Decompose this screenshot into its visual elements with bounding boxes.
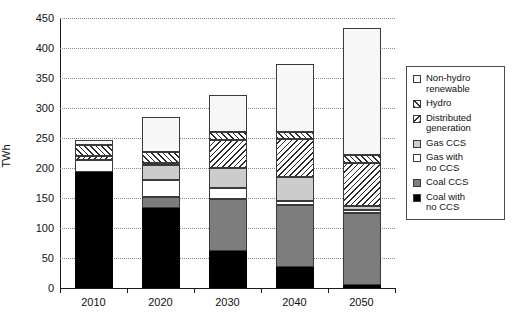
bar-segment[interactable] [343,213,381,285]
x-tick-label-2040: 2040 [265,296,325,308]
x-tick-label-2030: 2030 [198,296,258,308]
legend-item[interactable]: Non-hydrorenewable [413,73,499,94]
bar-2010[interactable] [75,18,113,288]
x-tick-mark [127,288,128,293]
bar-segment[interactable] [276,177,314,201]
bar-segment[interactable] [75,140,113,145]
bar-2030[interactable] [209,18,247,288]
bar-segment[interactable] [142,165,180,180]
y-axis-tick-labels: 050100150200250300350400450 [18,18,54,288]
bar-segment[interactable] [343,206,381,210]
legend-label: Coal CCS [426,177,468,188]
bar-segment[interactable] [343,163,381,206]
bar-segment[interactable] [209,199,247,251]
legend-swatch-icon [413,154,421,162]
legend-label: Hydro [426,98,451,109]
bar-segment[interactable] [343,155,381,163]
y-tick-label: 150 [36,192,54,204]
x-tick-mark [60,288,61,293]
bar-segment[interactable] [142,117,180,152]
bar-segment[interactable] [142,163,180,165]
legend-swatch-icon [413,179,421,187]
x-tick-mark [395,288,396,293]
bar-segment[interactable] [209,132,247,140]
bar-segment[interactable] [75,145,113,156]
bar-segment[interactable] [142,208,180,288]
y-tick-label: 250 [36,132,54,144]
bar-segment[interactable] [209,140,247,168]
bar-segment[interactable] [209,168,247,188]
legend-swatch-icon [413,100,421,108]
legend-label: Non-hydrorenewable [426,73,470,94]
y-tick-label: 0 [48,282,54,294]
stacked-bar-chart: TWh 050100150200250300350400450 Non-hydr… [0,0,514,319]
x-tick-mark [261,288,262,293]
bar-segment[interactable] [276,267,314,288]
y-tick-label: 100 [36,222,54,234]
y-tick-label: 50 [42,252,54,264]
y-axis-title: TWh [0,144,12,167]
y-tick-label: 400 [36,42,54,54]
y-tick-label: 300 [36,102,54,114]
bar-2050[interactable] [343,18,381,288]
y-tick-label: 200 [36,162,54,174]
x-axis-line [60,288,396,289]
chart-legend: Non-hydrorenewableHydroDistributedgenera… [406,66,505,220]
bar-segment[interactable] [209,95,247,132]
legend-swatch-icon [413,75,421,83]
bar-segment[interactable] [276,201,314,205]
bar-segment[interactable] [343,285,381,288]
legend-swatch-icon [413,140,421,148]
bar-segment[interactable] [75,160,113,172]
bar-segment[interactable] [209,251,247,288]
y-tick-label: 350 [36,72,54,84]
bar-segment[interactable] [276,132,314,139]
x-tick-mark [194,288,195,293]
legend-item[interactable]: Distributedgeneration [413,113,499,134]
bar-segment[interactable] [142,197,180,208]
legend-item[interactable]: Gas CCS [413,138,499,149]
x-tick-label-2020: 2020 [131,296,191,308]
legend-label: Gas withno CCS [426,152,463,173]
legend-swatch-icon [413,194,421,202]
bar-segment[interactable] [276,205,314,267]
x-tick-mark [328,288,329,293]
legend-label: Coal withno CCS [426,192,465,213]
plot-area [60,18,395,288]
legend-label: Gas CCS [426,138,466,149]
legend-item[interactable]: Coal CCS [413,177,499,188]
bar-segment[interactable] [276,139,314,177]
bar-2020[interactable] [142,18,180,288]
bar-2040[interactable] [276,18,314,288]
bar-segment[interactable] [75,156,113,160]
y-tick-label: 450 [36,12,54,24]
legend-item[interactable]: Gas withno CCS [413,152,499,173]
bar-segment[interactable] [142,152,180,163]
legend-swatch-icon [413,115,421,123]
legend-item[interactable]: Hydro [413,98,499,109]
legend-item[interactable]: Coal withno CCS [413,192,499,213]
bar-segment[interactable] [75,172,113,288]
legend-label: Distributedgeneration [426,113,471,134]
bar-segment[interactable] [142,180,180,197]
bar-segment[interactable] [276,64,314,132]
bar-segment[interactable] [209,188,247,199]
bar-segment[interactable] [343,210,381,213]
x-tick-label-2050: 2050 [332,296,392,308]
bar-segment[interactable] [343,28,381,155]
x-tick-label-2010: 2010 [64,296,124,308]
